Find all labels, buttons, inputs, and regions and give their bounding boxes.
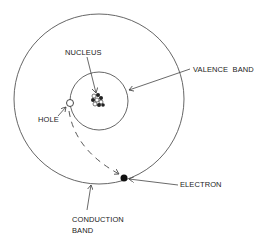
nucleus-label: NUCLEUS: [65, 48, 102, 57]
atom-band-diagram: NUCLEUS VALENCE BAND HOLE ELECTRON CONDU…: [0, 0, 271, 240]
conduction-band-label-line2: BAND: [72, 226, 94, 235]
hole-label: HOLE: [38, 115, 59, 124]
conduction-band-label-line1: CONDUCTION: [72, 215, 124, 224]
conduction-band-arrow: [87, 185, 91, 210]
valence-band-arrow: [129, 69, 190, 90]
hole-icon: [67, 100, 74, 107]
transition-dashed-arrow: [69, 111, 119, 174]
valence-band-label: VALENCE BAND: [193, 65, 254, 74]
electron-label: ELECTRON: [180, 180, 222, 189]
electron-arrow: [129, 179, 178, 185]
nucleus-arrow: [87, 57, 96, 93]
electron-icon: [121, 175, 128, 182]
nucleus-icon: [91, 93, 105, 107]
hole-arrow: [58, 107, 66, 116]
